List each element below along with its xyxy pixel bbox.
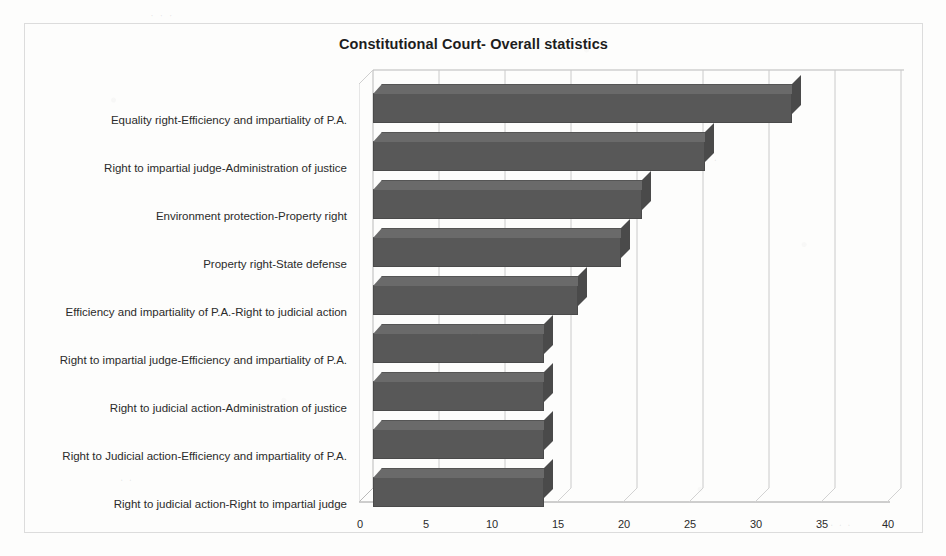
bar-face[interactable] — [373, 381, 544, 411]
x-tick-label: 20 — [618, 518, 630, 530]
bar-top-face — [373, 180, 651, 190]
category-label: Right to impartial judge-Efficiency and … — [60, 354, 347, 366]
bar-side-face — [621, 219, 630, 258]
bar-face[interactable] — [373, 237, 621, 267]
x-axis: 0 5 10 15 20 25 30 35 40 — [359, 504, 919, 538]
x-tick-label: 30 — [750, 518, 762, 530]
scan-ghost-mark: · · · — [150, 8, 174, 22]
bar-face[interactable] — [373, 477, 544, 507]
x-tick-label: 5 — [423, 518, 429, 530]
bar-side-face — [792, 75, 801, 114]
bar-side-face — [705, 123, 714, 162]
bar-face[interactable] — [373, 429, 544, 459]
x-tick-label: 15 — [552, 518, 564, 530]
category-label: Equality right-Efficiency and impartiali… — [111, 114, 347, 126]
bar-top-face — [373, 84, 801, 94]
bar-side-face — [642, 171, 651, 210]
chart-title: Constitutional Court- Overall statistics — [25, 36, 922, 52]
chart-frame: Constitutional Court- Overall statistics… — [24, 23, 923, 533]
bar-side-face — [578, 267, 587, 306]
bar-side-face — [544, 363, 553, 402]
category-label: Environment protection-Property right — [156, 210, 347, 222]
category-label: Right to judicial action-Right to impart… — [114, 498, 347, 510]
bar-top-face — [373, 324, 553, 334]
bar-top-face — [373, 372, 553, 382]
bar-top-face — [373, 132, 714, 142]
bar-side-face — [544, 411, 553, 450]
bar-top-face — [373, 468, 553, 478]
bar-face[interactable] — [373, 189, 642, 219]
category-label: Right to impartial judge-Administration … — [104, 162, 347, 174]
y-axis-category-labels: Equality right-Efficiency and impartiali… — [25, 56, 355, 504]
x-tick-label: 40 — [882, 518, 894, 530]
category-label: Property right-State defense — [203, 258, 347, 270]
x-tick-label: 35 — [816, 518, 828, 530]
bar-side-face — [544, 315, 553, 354]
bar-series — [359, 56, 919, 504]
bar-face[interactable] — [373, 285, 578, 315]
bar-face[interactable] — [373, 93, 792, 123]
x-tick-label: 10 — [486, 518, 498, 530]
category-label: Right to judicial action-Administration … — [110, 402, 347, 414]
bar-face[interactable] — [373, 141, 705, 171]
bar-top-face — [373, 276, 587, 286]
category-label: Efficiency and impartiality of P.A.-Righ… — [66, 306, 347, 318]
bar-side-face — [544, 459, 553, 498]
category-label: Right to Judicial action-Efficiency and … — [62, 450, 347, 462]
plot-area — [359, 56, 919, 504]
bar-top-face — [373, 420, 553, 430]
bar-top-face — [373, 228, 630, 238]
bar-face[interactable] — [373, 333, 544, 363]
x-tick-label: 25 — [684, 518, 696, 530]
x-tick-label: 0 — [357, 518, 363, 530]
